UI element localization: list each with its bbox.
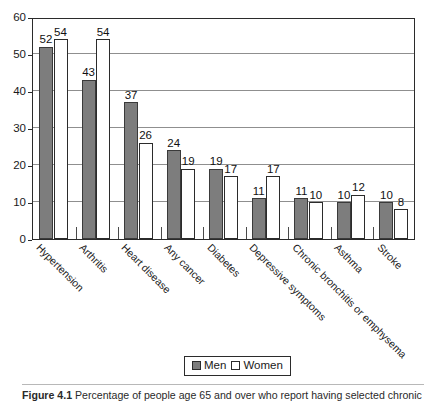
bar-value-label: 12	[347, 182, 369, 194]
figure-caption-text: Percentage of people age 65 and over who…	[75, 389, 422, 401]
x-axis-label-arthritis: Arthritis	[77, 242, 110, 275]
bar-women	[266, 176, 280, 239]
x-axis-group-separator	[161, 227, 162, 239]
bar-value-label: 24	[163, 138, 185, 150]
bar-value-label: 17	[262, 164, 284, 176]
x-axis-group-separator	[76, 227, 77, 239]
x-axis-group-separator	[288, 227, 289, 239]
x-axis-label-stroke: Stroke	[375, 242, 404, 271]
bar-women	[309, 202, 323, 239]
legend-label-women: Women	[243, 359, 282, 372]
bar-men	[337, 202, 351, 239]
bar-value-label: 17	[220, 164, 242, 176]
y-axis-tick-label: 10	[0, 197, 26, 209]
bar-women	[96, 39, 110, 239]
y-axis-tick-mark	[28, 240, 32, 241]
y-axis-tick-label: 50	[0, 49, 26, 61]
figure-root: 0102030405060 52544354372624191917111711…	[0, 0, 445, 403]
legend-item-women: Women	[231, 359, 282, 372]
legend-swatch-women-icon	[231, 361, 240, 370]
bar-value-label: 54	[92, 27, 114, 39]
bar-women	[351, 195, 365, 239]
legend-label-men: Men	[204, 359, 226, 372]
x-axis-category-labels: HypertensionArthritisHeart diseaseAny ca…	[0, 242, 445, 357]
bar-value-label: 26	[135, 130, 157, 142]
x-axis-group-separator	[118, 227, 119, 239]
y-axis-tick-label: 60	[0, 12, 26, 24]
x-axis-label-asthma: Asthma	[332, 242, 365, 275]
figure-caption-label: Figure 4.1	[22, 389, 72, 401]
plot-area: 52544354372624191917111711101012108	[32, 18, 415, 240]
bar-value-label: 37	[120, 90, 142, 102]
bars-layer: 52544354372624191917111711101012108	[33, 19, 414, 239]
bar-value-label: 19	[177, 156, 199, 168]
bar-men	[209, 169, 223, 239]
bar-women	[394, 209, 408, 239]
x-axis-label-any-cancer: Any cancer	[162, 242, 207, 287]
x-axis-group-separator	[331, 227, 332, 239]
bar-value-label: 54	[50, 27, 72, 39]
chart-legend: Men Women	[184, 356, 291, 376]
bar-women	[224, 176, 238, 239]
x-axis-group-separator	[203, 227, 204, 239]
x-axis-group-separator	[246, 227, 247, 239]
y-axis-tick-label: 20	[0, 160, 26, 172]
bar-value-label: 10	[305, 190, 327, 202]
bar-men	[39, 47, 53, 239]
bar-women	[139, 143, 153, 239]
legend-swatch-men-icon	[192, 361, 201, 370]
figure-caption: Figure 4.1 Percentage of people age 65 a…	[22, 389, 430, 402]
caption-divider	[22, 384, 424, 385]
y-axis-tick-label: 30	[0, 123, 26, 135]
bar-men	[82, 80, 96, 239]
bar-value-label: 8	[390, 197, 412, 209]
bar-women	[54, 39, 68, 239]
bar-women	[181, 169, 195, 239]
bar-men	[252, 198, 266, 239]
bar-men	[124, 102, 138, 239]
x-axis-group-separator	[373, 227, 374, 239]
y-axis-tick-label: 40	[0, 86, 26, 98]
legend-item-men: Men	[192, 359, 226, 372]
bar-men	[294, 198, 308, 239]
x-axis-label-diabetes: Diabetes	[205, 242, 242, 279]
x-axis-label-depressive-symptoms: Depressive symptoms	[247, 242, 328, 323]
